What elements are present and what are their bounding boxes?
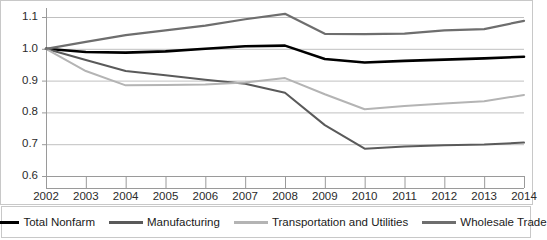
y-tick-label: 0.7 <box>8 138 38 150</box>
x-tick-label: 2009 <box>305 191 345 203</box>
x-tick-label: 2005 <box>146 191 186 203</box>
legend-label: Manufacturing <box>147 216 220 228</box>
plot-area: 1.11.00.90.80.70.6 200220032004200520062… <box>0 0 533 205</box>
y-tick-label: 0.9 <box>8 75 38 87</box>
legend-swatch-icon <box>234 221 268 224</box>
x-tick-label: 2003 <box>66 191 106 203</box>
series-line-wholesale-trade <box>46 14 524 49</box>
plot-svg <box>0 0 533 205</box>
y-tick-label: 0.8 <box>8 106 38 118</box>
x-tick-label: 2008 <box>265 191 305 203</box>
x-tick-label: 2012 <box>424 191 464 203</box>
x-tick-label: 2002 <box>26 191 66 203</box>
x-tick-label: 2010 <box>345 191 385 203</box>
x-tick-label: 2013 <box>464 191 504 203</box>
y-tick-label: 1.1 <box>8 11 38 23</box>
x-tick-label: 2007 <box>225 191 265 203</box>
legend-swatch-icon <box>0 221 19 224</box>
y-tick-label: 0.6 <box>8 170 38 182</box>
x-tick-label: 2006 <box>185 191 225 203</box>
legend-label: Transportation and Utilities <box>272 216 408 228</box>
legend-swatch-icon <box>422 221 456 224</box>
legend-item-wholesale-trade[interactable]: Wholesale Trade <box>422 216 546 228</box>
series-line-manufacturing <box>46 49 524 149</box>
legend-item-manufacturing[interactable]: Manufacturing <box>109 216 220 228</box>
legend-item-total-nonfarm[interactable]: Total Nonfarm <box>0 216 95 228</box>
x-tick-label: 2004 <box>106 191 146 203</box>
x-tick-label: 2014 <box>504 191 544 203</box>
series-line-total-nonfarm <box>46 46 524 63</box>
chart-legend: Total NonfarmManufacturingTransportation… <box>1 206 531 238</box>
legend-label: Total Nonfarm <box>23 216 95 228</box>
series-line-transportation-and-utilities <box>46 49 524 109</box>
y-tick-label: 1.0 <box>8 43 38 55</box>
legend-item-transportation-and-utilities[interactable]: Transportation and Utilities <box>234 216 408 228</box>
legend-label: Wholesale Trade <box>460 216 546 228</box>
x-tick-label: 2011 <box>385 191 425 203</box>
legend-swatch-icon <box>109 221 143 224</box>
